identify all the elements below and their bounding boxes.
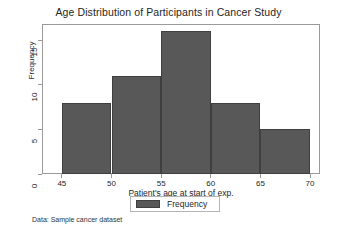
x-tick-label: 70 <box>296 179 324 188</box>
x-tick-mark <box>111 174 112 178</box>
histogram-bar <box>112 76 162 174</box>
y-tick-label: 5 <box>23 129 47 153</box>
x-tick-mark <box>260 174 261 178</box>
x-tick-mark <box>161 174 162 178</box>
histogram-bar <box>161 31 211 174</box>
plot-area: 051015 455055606570 <box>42 24 320 174</box>
x-tick-mark <box>210 174 211 178</box>
histogram-bar <box>62 103 112 174</box>
x-tick-label: 55 <box>147 179 175 188</box>
legend-swatch-frequency <box>136 200 160 208</box>
legend: Frequency <box>130 196 220 212</box>
x-tick-label: 50 <box>98 179 126 188</box>
histogram-bar <box>211 103 261 174</box>
x-tick-label: 45 <box>48 179 76 188</box>
x-tick-mark <box>310 174 311 178</box>
x-tick-mark <box>61 174 62 178</box>
x-tick-label: 60 <box>197 179 225 188</box>
chart-title: Age Distribution of Participants in Canc… <box>0 6 337 18</box>
y-axis-label: Frequency <box>27 21 36 101</box>
histogram-bar <box>260 129 310 174</box>
footnote-data-source: Data: Sample cancer dataset <box>32 216 122 223</box>
x-tick-label: 65 <box>246 179 274 188</box>
legend-label-frequency: Frequency <box>167 199 207 209</box>
bars-layer <box>42 24 320 174</box>
histogram-figure: Age Distribution of Participants in Canc… <box>0 0 337 233</box>
